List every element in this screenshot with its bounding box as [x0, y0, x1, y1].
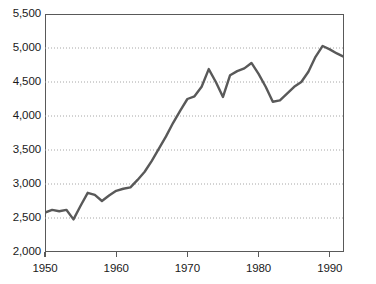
x-tick-label: 1950 — [20, 263, 70, 275]
x-tick-label: 1980 — [234, 263, 284, 275]
x-tick-label: 1970 — [162, 263, 212, 275]
x-tick-mark — [44, 252, 45, 257]
x-tick-mark — [258, 252, 259, 257]
x-axis-labels: 19501960197019801990 — [0, 0, 376, 284]
x-tick-label: 1990 — [305, 263, 355, 275]
x-tick-mark — [116, 252, 117, 257]
x-tick-label: 1960 — [91, 263, 141, 275]
line-chart: 2,0002,5003,0003,5004,0004,5005,0005,500… — [0, 0, 376, 284]
x-tick-mark — [329, 252, 330, 257]
x-tick-mark — [187, 252, 188, 257]
